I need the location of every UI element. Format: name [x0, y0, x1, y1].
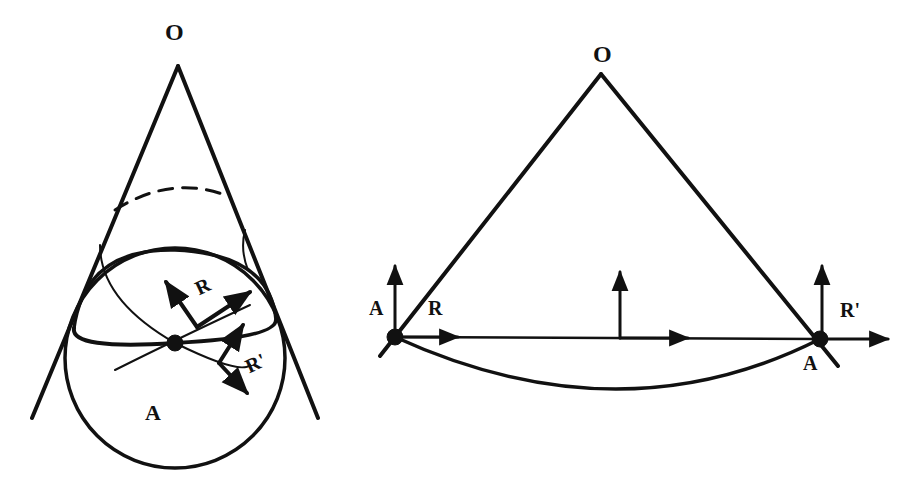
right-left-A-label: A — [369, 297, 384, 319]
unrolled-left-edge — [380, 74, 601, 356]
right-R-label: R — [428, 297, 443, 319]
right-apex-label: O — [593, 41, 612, 67]
left-point — [387, 329, 403, 345]
dashed-back-arc — [115, 188, 225, 210]
left-R-label: R — [191, 273, 214, 299]
right-right-A-label: A — [803, 352, 818, 374]
left-region-label: A — [145, 400, 161, 425]
vector-R-normal — [166, 282, 197, 327]
unrolled-right-edge — [601, 74, 838, 366]
contact-point — [167, 335, 183, 351]
left-Rprime-label: R' — [242, 349, 269, 377]
vector-Rprime-normal — [219, 325, 243, 363]
left-apex-label: O — [165, 19, 184, 45]
left-panel-cone — [32, 66, 318, 468]
right-Rprime-label: R' — [840, 299, 860, 321]
base-arc — [395, 337, 820, 389]
right-panel-unrolled — [380, 74, 888, 389]
right-point — [812, 331, 828, 347]
cone-left-edge — [32, 66, 178, 418]
cone-geodesic-diagram: O A R R' O A R A R' — [0, 0, 916, 491]
